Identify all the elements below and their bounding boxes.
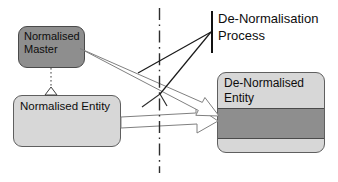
normalised-entity-node: Normalised Entity [13, 95, 121, 147]
normalised-master-node: Normalised Master [18, 26, 85, 68]
denormalised-entity-node: De-Normalised Entity [217, 72, 325, 153]
boundary-arrowhead-icon [142, 94, 167, 107]
process-callout-line-upper [138, 32, 211, 73]
denormalised-attribute-band [217, 108, 325, 139]
diagram-canvas: Normalised Master Normalised Entity De-N… [0, 0, 338, 182]
normalised-entity-label: Normalised Entity [20, 100, 116, 113]
generalization-triangle-icon [45, 87, 57, 95]
process-annotation-label: De-Normalisation Process [218, 10, 336, 44]
denormalised-entity-label: De-Normalised Entity [218, 73, 324, 105]
normalised-master-label: Normalised Master [24, 30, 82, 56]
transform-arrow-from-entity [121, 106, 218, 133]
process-callout-line-lower [160, 32, 211, 94]
